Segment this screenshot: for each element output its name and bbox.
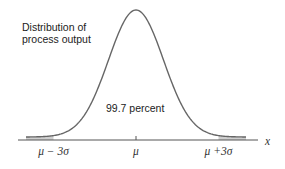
x-axis-label: x [264,135,271,147]
normal-distribution-diagram: Distribution of process output 99.7 perc… [0,0,285,169]
tick-label-2: μ +3σ [204,145,234,158]
coverage-label: 99.7 percent [106,102,164,114]
curve-label-line2: process output [22,33,91,45]
tick-label-1: μ [132,145,139,158]
curve-label-line1: Distribution of [22,21,86,33]
tick-label-0: μ − 3σ [37,145,70,158]
